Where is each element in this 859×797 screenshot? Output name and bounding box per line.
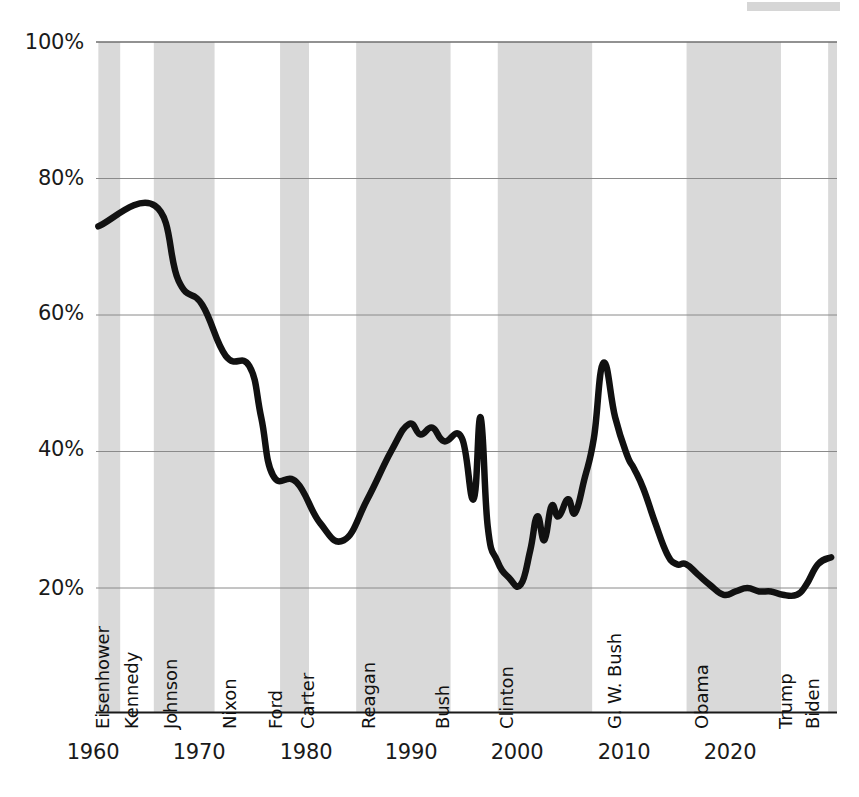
president-label-nixon: Nixon bbox=[219, 679, 240, 730]
president-label-trump: Trump bbox=[775, 673, 796, 729]
term-band-reagan bbox=[356, 42, 450, 713]
president-label-eisenhower: Eisenhower bbox=[92, 626, 113, 729]
president-label-ford: Ford bbox=[265, 690, 286, 729]
president-label-bush: Bush bbox=[432, 685, 453, 729]
term-band-ford bbox=[280, 42, 309, 713]
term-band-eisenhower bbox=[98, 42, 120, 713]
president-label-johnson: Johnson bbox=[160, 659, 181, 729]
president-term-bands bbox=[98, 42, 837, 713]
president-label-carter: Carter bbox=[297, 673, 318, 729]
president-label-reagan: Reagan bbox=[358, 662, 379, 729]
term-band-biden bbox=[828, 42, 837, 713]
president-label-obama: Obama bbox=[691, 664, 712, 729]
trust-in-government-chart: 100% 80% 60% 40% 20% 1960 1970 1980 1990… bbox=[0, 0, 859, 797]
term-band-clinton bbox=[498, 42, 592, 713]
president-label-kennedy: Kennedy bbox=[121, 652, 142, 729]
term-band-obama bbox=[687, 42, 781, 713]
president-label-clinton: Clinton bbox=[496, 666, 517, 729]
term-band-johnson bbox=[154, 42, 215, 713]
president-label-g-w-bush: G. W. Bush bbox=[604, 633, 625, 729]
president-label-biden: Biden bbox=[802, 678, 823, 729]
